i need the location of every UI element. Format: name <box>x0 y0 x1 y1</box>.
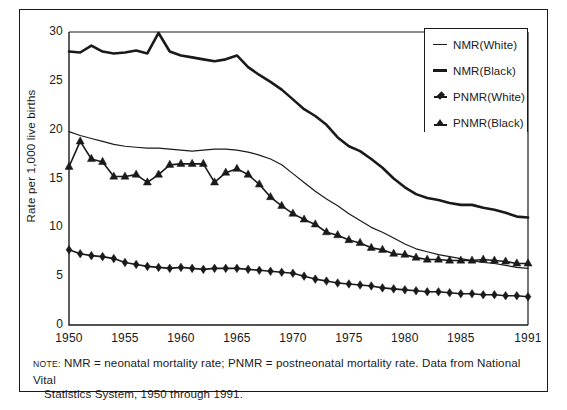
y-axis-label: Rate per 1,000 live births <box>25 76 37 236</box>
legend-label-pnmr-white: PNMR(White) <box>453 91 525 103</box>
legend-item-pnmr-black[interactable]: PNMR(Black) <box>432 113 524 133</box>
x-tick-1950: 1950 <box>47 331 91 345</box>
legend-key-line-thick-icon <box>432 64 449 78</box>
series-pnmrwhite <box>66 245 531 300</box>
y-tick-0: 0 <box>35 317 63 331</box>
legend-item-nmr-black[interactable]: NMR(Black) <box>432 61 516 81</box>
figure-note-line1: NMR = neonatal mortality rate; PNMR = po… <box>33 356 520 386</box>
series-pnmrblack <box>65 137 532 266</box>
figure-note: NOTE: NMR = neonatal mortality rate; PNM… <box>33 355 521 401</box>
x-tick-1960: 1960 <box>159 331 203 345</box>
y-tick-15: 15 <box>35 171 63 185</box>
y-tick-25: 25 <box>35 73 63 87</box>
y-tick-30: 30 <box>35 24 63 38</box>
legend-item-pnmr-white[interactable]: PNMR(White) <box>432 87 525 107</box>
legend-key-line-thin-icon <box>432 38 449 52</box>
y-tick-5: 5 <box>35 268 63 282</box>
figure-note-label: NOTE: <box>33 359 61 369</box>
legend-label-nmr-white: NMR(White) <box>453 39 517 51</box>
x-tick-1985: 1985 <box>439 331 483 345</box>
figure-note-line2: Statistics System, 1950 through 1991. <box>33 386 521 401</box>
chart-legend: NMR(White) NMR(Black) PNMR(White) PNMR(B… <box>424 28 528 132</box>
series-nmrwhite <box>69 132 528 269</box>
x-tick-1980: 1980 <box>383 331 427 345</box>
x-tick-1965: 1965 <box>215 331 259 345</box>
x-tick-1975: 1975 <box>327 331 371 345</box>
legend-key-diamond-icon <box>432 90 449 104</box>
legend-label-pnmr-black: PNMR(Black) <box>453 117 524 129</box>
x-tick-1991: 1991 <box>506 331 550 345</box>
legend-item-nmr-white[interactable]: NMR(White) <box>432 35 517 55</box>
y-tick-10: 10 <box>35 219 63 233</box>
x-tick-1970: 1970 <box>271 331 315 345</box>
y-tick-20: 20 <box>35 122 63 136</box>
figure-panel: Rate per 1,000 live births 051015202530 … <box>0 0 567 410</box>
legend-label-nmr-black: NMR(Black) <box>453 65 516 77</box>
legend-key-triangle-icon <box>432 116 449 130</box>
x-tick-1955: 1955 <box>103 331 147 345</box>
